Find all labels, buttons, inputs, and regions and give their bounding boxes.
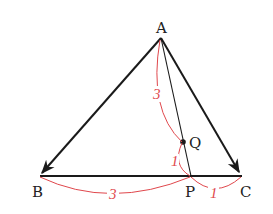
vector-ab <box>42 38 161 173</box>
label-c: C <box>240 183 251 201</box>
triangle-diagram: 3 1 3 1 A B C P Q <box>0 0 273 214</box>
label-a: A <box>155 19 167 37</box>
ratio-qp: 1 <box>171 153 179 169</box>
label-p: P <box>185 183 195 201</box>
ratio-aq: 3 <box>152 86 161 102</box>
label-q: Q <box>189 134 201 152</box>
ratio-bp: 3 <box>108 186 117 202</box>
label-b: B <box>32 183 43 201</box>
ratio-pc: 1 <box>210 185 218 201</box>
diagram-canvas: 3 1 3 1 A B C P Q <box>0 0 273 214</box>
